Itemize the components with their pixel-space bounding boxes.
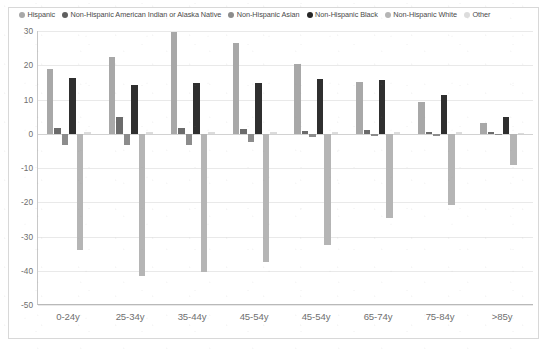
legend-item-label: Other — [472, 11, 490, 19]
x-axis-tick-label: >85y — [471, 307, 533, 327]
legend-swatch-icon — [62, 12, 68, 18]
bar[interactable] — [208, 132, 215, 134]
bar[interactable] — [84, 132, 91, 134]
bar[interactable] — [324, 134, 331, 245]
bar-groups — [38, 31, 533, 304]
chart-legend: HispanicNon-Hispanic American Indian or … — [19, 8, 539, 22]
bar-group — [100, 31, 162, 304]
x-axis-tick-label: 25-34y — [99, 307, 161, 327]
legend-item-label: Non-Hispanic White — [393, 11, 457, 19]
y-axis-tick-label: -10 — [21, 164, 33, 173]
legend-item[interactable]: Non-Hispanic White — [385, 11, 457, 19]
bar-group — [471, 31, 533, 304]
bar[interactable] — [317, 79, 324, 134]
bar[interactable] — [456, 132, 463, 133]
bar[interactable] — [488, 132, 495, 133]
bar[interactable] — [146, 132, 153, 134]
bar[interactable] — [386, 134, 393, 218]
x-axis-tick-label: 0-24y — [37, 307, 99, 327]
legend-item[interactable]: Non-Hispanic Asian — [228, 11, 299, 19]
bar[interactable] — [139, 134, 146, 276]
legend-item[interactable]: Non-Hispanic American Indian or Alaska N… — [62, 11, 221, 19]
bar[interactable] — [495, 134, 502, 136]
bar[interactable] — [54, 128, 61, 134]
bar[interactable] — [178, 128, 185, 134]
legend-swatch-icon — [19, 12, 25, 18]
bar[interactable] — [371, 134, 378, 137]
bar-group — [347, 31, 409, 304]
bar[interactable] — [518, 133, 525, 134]
bar[interactable] — [240, 129, 247, 134]
bar[interactable] — [418, 102, 425, 134]
legend-swatch-icon — [464, 12, 470, 18]
x-axis-tick-label: 45-54y — [223, 307, 285, 327]
legend-item-label: Non-Hispanic American Indian or Alaska N… — [71, 11, 222, 19]
y-axis-tick-label: 30 — [24, 27, 33, 36]
bar[interactable] — [186, 134, 193, 145]
legend-swatch-icon — [307, 12, 313, 18]
bar-group — [224, 31, 286, 304]
legend-item-label: Non-Hispanic Asian — [237, 11, 300, 19]
bar[interactable] — [379, 80, 386, 133]
legend-item-label: Hispanic — [28, 11, 56, 19]
bar[interactable] — [109, 57, 116, 134]
legend-item[interactable]: Non-Hispanic Black — [307, 11, 378, 19]
bar-group — [286, 31, 348, 304]
legend-swatch-icon — [385, 12, 391, 18]
y-axis-tick-label: -40 — [21, 266, 33, 275]
bar[interactable] — [441, 95, 448, 134]
bar[interactable] — [263, 134, 270, 262]
bar[interactable] — [124, 134, 131, 145]
bar[interactable] — [510, 134, 517, 166]
x-axis-tick-label: 35-44y — [161, 307, 223, 327]
bar[interactable] — [116, 117, 123, 133]
bar[interactable] — [255, 83, 262, 134]
bar[interactable] — [394, 132, 401, 134]
y-axis-tick-label: 10 — [24, 95, 33, 104]
bar[interactable] — [62, 134, 69, 145]
y-axis-tick-label: 0 — [28, 129, 33, 138]
bar[interactable] — [294, 64, 301, 134]
bar[interactable] — [201, 134, 208, 273]
y-axis-tick-label: -50 — [21, 301, 33, 310]
bar[interactable] — [302, 131, 309, 134]
x-axis-tick-label: 45-54y — [285, 307, 347, 327]
gridline: -50 — [38, 305, 533, 306]
bar[interactable] — [233, 43, 240, 134]
bar[interactable] — [356, 82, 363, 133]
grouped-bar-chart: HispanicNon-Hispanic American Indian or … — [0, 0, 547, 350]
bar-group — [38, 31, 100, 304]
bar-group — [409, 31, 471, 304]
bar[interactable] — [332, 132, 339, 134]
bar[interactable] — [480, 123, 487, 134]
legend-item-label: Non-Hispanic Black — [315, 11, 378, 19]
legend-item[interactable]: Hispanic — [19, 11, 55, 19]
y-axis-tick-label: -20 — [21, 198, 33, 207]
y-axis-tick-label: 20 — [24, 61, 33, 70]
bar[interactable] — [69, 78, 76, 134]
bar[interactable] — [503, 117, 510, 134]
plot-area: 3020100-10-20-30-40-50 — [37, 31, 533, 305]
legend-swatch-icon — [228, 12, 234, 18]
bar[interactable] — [364, 130, 371, 134]
bar[interactable] — [448, 134, 455, 205]
bar[interactable] — [171, 32, 178, 134]
bar[interactable] — [47, 69, 54, 134]
x-axis-tick-label: 75-84y — [409, 307, 471, 327]
bar[interactable] — [270, 132, 277, 134]
y-axis-tick-label: -30 — [21, 232, 33, 241]
bar[interactable] — [426, 132, 433, 134]
legend-item[interactable]: Other — [464, 11, 491, 19]
x-axis-tick-label: 65-74y — [347, 307, 409, 327]
bar[interactable] — [193, 83, 200, 134]
bar[interactable] — [309, 134, 316, 137]
bar[interactable] — [77, 134, 84, 250]
x-axis-labels: 0-24y25-34y35-44y45-54y45-54y65-74y75-84… — [37, 307, 533, 327]
bar[interactable] — [433, 134, 440, 136]
bar[interactable] — [131, 85, 138, 134]
bar-group — [162, 31, 224, 304]
bar[interactable] — [248, 134, 255, 142]
